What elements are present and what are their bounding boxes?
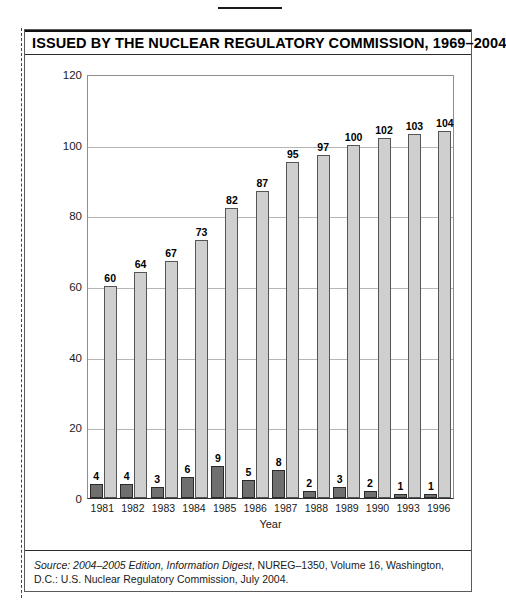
bar-dark-series-1987[interactable]: 8 bbox=[272, 470, 285, 498]
source-citation-italic: Source: 2004–2005 Edition, Information D… bbox=[34, 559, 252, 571]
bar-group: 3100 bbox=[331, 76, 361, 498]
x-axis-tick-labels: 1981198219831984198519861987198819891990… bbox=[87, 500, 454, 516]
figure-title-band: ISSUED BY THE NUCLEAR REGULATORY COMMISS… bbox=[25, 30, 471, 55]
top-horizontal-rule bbox=[218, 7, 282, 9]
bar-group: 587 bbox=[240, 76, 270, 498]
bar-dark-series-1985[interactable]: 9 bbox=[211, 466, 224, 498]
x-axis-title: Year bbox=[87, 518, 454, 530]
y-axis-tick-label: 80 bbox=[31, 210, 87, 222]
plot-frame: 4604643676739825878952973100210211031104 bbox=[87, 75, 454, 499]
bar-value-label: 2 bbox=[367, 478, 373, 489]
bar-group: 895 bbox=[271, 76, 301, 498]
bar-group: 1104 bbox=[423, 76, 453, 498]
bar-value-label: 87 bbox=[256, 178, 268, 189]
bar-light-series-1989[interactable]: 100 bbox=[347, 145, 360, 498]
bar-value-label: 3 bbox=[337, 474, 343, 485]
bar-light-series-1993[interactable]: 103 bbox=[408, 134, 421, 498]
bar-dark-series-1989[interactable]: 3 bbox=[333, 487, 346, 498]
bar-value-label: 97 bbox=[317, 142, 329, 153]
x-axis-tick-label: 1996 bbox=[423, 500, 454, 516]
bar-light-series-1985[interactable]: 82 bbox=[225, 208, 238, 498]
y-axis-tick-label: 20 bbox=[31, 422, 87, 434]
y-axis-tick-label: 100 bbox=[31, 140, 87, 152]
top-rule-container bbox=[0, 0, 496, 28]
bar-value-label: 3 bbox=[154, 474, 160, 485]
y-axis-tick-label: 60 bbox=[31, 281, 87, 293]
source-note-band: Source: 2004–2005 Edition, Information D… bbox=[25, 550, 471, 591]
bar-group: 464 bbox=[118, 76, 148, 498]
y-axis-tick-label: 0 bbox=[31, 493, 87, 505]
bar-dark-series-1986[interactable]: 5 bbox=[242, 480, 255, 498]
dashed-cut-line bbox=[21, 28, 22, 598]
bar-value-label: 102 bbox=[375, 125, 393, 136]
bar-value-label: 4 bbox=[124, 471, 130, 482]
figure-container: ISSUED BY THE NUCLEAR REGULATORY COMMISS… bbox=[24, 29, 472, 592]
bar-group: 460 bbox=[88, 76, 118, 498]
x-axis-tick-label: 1982 bbox=[118, 500, 149, 516]
bar-light-series-1987[interactable]: 95 bbox=[286, 162, 299, 498]
bar-light-series-1981[interactable]: 60 bbox=[104, 286, 117, 498]
bar-dark-series-1988[interactable]: 2 bbox=[303, 491, 316, 498]
bar-value-label: 103 bbox=[406, 121, 424, 132]
bar-group: 367 bbox=[149, 76, 179, 498]
x-axis-tick-label: 1990 bbox=[362, 500, 393, 516]
bar-value-label: 5 bbox=[245, 467, 251, 478]
page-title: ISSUED BY THE NUCLEAR REGULATORY COMMISS… bbox=[25, 35, 506, 51]
y-axis-tick-label: 120 bbox=[31, 69, 87, 81]
bar-group: 2102 bbox=[362, 76, 392, 498]
bar-dark-series-1982[interactable]: 4 bbox=[120, 484, 133, 498]
bar-value-label: 104 bbox=[436, 118, 454, 129]
y-axis: 020406080100120 bbox=[25, 75, 87, 499]
bar-dark-series-1990[interactable]: 2 bbox=[364, 491, 377, 498]
bar-light-series-1996[interactable]: 104 bbox=[438, 131, 451, 498]
x-axis-tick-label: 1981 bbox=[87, 500, 118, 516]
y-axis-tick-label: 40 bbox=[31, 352, 87, 364]
bar-value-label: 64 bbox=[135, 259, 147, 270]
bar-value-label: 100 bbox=[345, 132, 363, 143]
bar-dark-series-1984[interactable]: 6 bbox=[181, 477, 194, 498]
bar-dark-series-1981[interactable]: 4 bbox=[90, 484, 103, 498]
x-axis-tick-label: 1984 bbox=[179, 500, 210, 516]
bar-light-series-1988[interactable]: 97 bbox=[317, 155, 330, 498]
x-axis-tick-label: 1986 bbox=[240, 500, 271, 516]
x-axis-tick-label: 1985 bbox=[209, 500, 240, 516]
bar-light-series-1990[interactable]: 102 bbox=[378, 138, 391, 498]
bar-group: 1103 bbox=[392, 76, 422, 498]
x-axis-tick-label: 1993 bbox=[393, 500, 424, 516]
bar-value-label: 60 bbox=[104, 273, 116, 284]
x-axis-tick-label: 1988 bbox=[301, 500, 332, 516]
bar-light-series-1986[interactable]: 87 bbox=[256, 191, 269, 498]
bar-value-label: 73 bbox=[196, 227, 208, 238]
bar-group: 982 bbox=[210, 76, 240, 498]
x-axis-tick-label: 1989 bbox=[332, 500, 363, 516]
bar-group: 673 bbox=[179, 76, 209, 498]
bar-light-series-1982[interactable]: 64 bbox=[134, 272, 147, 498]
x-axis-tick-label: 1983 bbox=[148, 500, 179, 516]
bar-value-label: 2 bbox=[306, 478, 312, 489]
bar-dark-series-1983[interactable]: 3 bbox=[151, 487, 164, 498]
bar-value-label: 9 bbox=[215, 453, 221, 464]
bar-value-label: 6 bbox=[185, 464, 191, 475]
bar-light-series-1984[interactable]: 73 bbox=[195, 240, 208, 498]
source-note: Source: 2004–2005 Edition, Information D… bbox=[34, 558, 459, 586]
bar-groups: 4604643676739825878952973100210211031104 bbox=[88, 76, 453, 498]
bar-dark-series-1996[interactable]: 1 bbox=[424, 494, 437, 498]
bar-value-label: 95 bbox=[287, 149, 299, 160]
bar-light-series-1983[interactable]: 67 bbox=[165, 261, 178, 498]
bar-value-label: 67 bbox=[165, 248, 177, 259]
bar-value-label: 8 bbox=[276, 457, 282, 468]
bar-dark-series-1993[interactable]: 1 bbox=[394, 494, 407, 498]
bar-group: 297 bbox=[301, 76, 331, 498]
bar-value-label: 82 bbox=[226, 195, 238, 206]
bar-value-label: 1 bbox=[398, 481, 404, 492]
bar-value-label: 4 bbox=[93, 471, 99, 482]
bar-value-label: 1 bbox=[428, 481, 434, 492]
chart-area: 020406080100120 460464367673982587895297… bbox=[25, 56, 471, 551]
x-axis-tick-label: 1987 bbox=[270, 500, 301, 516]
